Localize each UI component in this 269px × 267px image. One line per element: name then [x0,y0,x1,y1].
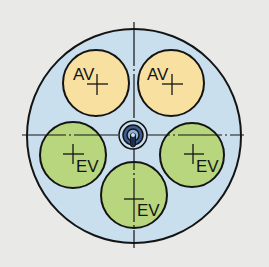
valve-layout-diagram: AV AV EV EV EV [0,0,269,267]
ev-bottom-label: EV [137,201,160,220]
ev-right-circle [160,123,224,187]
center-hub-icon [119,121,147,149]
av-left-label: AV [73,65,95,84]
av-right-label: AV [147,65,169,84]
port-av-right: AV [138,50,204,116]
ev-right-label: EV [196,157,219,176]
port-av-left: AV [63,50,129,116]
diagram-canvas: AV AV EV EV EV [0,0,269,267]
port-ev-right: EV [160,123,224,187]
ev-left-label: EV [76,157,99,176]
port-ev-left: EV [40,122,106,188]
